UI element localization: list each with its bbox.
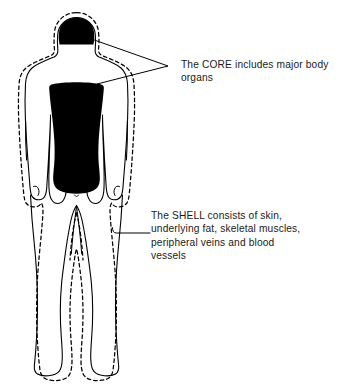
torso-core-region <box>49 82 104 194</box>
core-leader-lines <box>90 39 168 85</box>
shell-annotation-text: The SHELL consists of skin, underlying f… <box>151 209 346 263</box>
body-outline <box>25 18 128 376</box>
diagram-root: The CORE includes major body organs The … <box>0 0 353 390</box>
shell-leader-line <box>112 228 150 234</box>
core-annotation-text: The CORE includes major body organs <box>181 58 346 85</box>
